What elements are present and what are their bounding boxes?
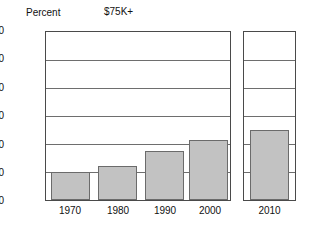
x-tick-1970: 1970 (44, 205, 96, 216)
gridline-30 (46, 116, 230, 117)
gridline-30-p2 (244, 116, 295, 117)
gridline-40 (46, 88, 230, 89)
y-tick-60: 60 (0, 26, 4, 36)
x-tick-2010: 2010 (243, 205, 296, 216)
plot-area-historical (45, 31, 231, 201)
y-tick-40: 40 (0, 83, 4, 93)
y-axis-ticks: 60 50 40 30 20 10 0 (0, 0, 45, 230)
y-tick-50: 50 (0, 54, 4, 64)
gridline-50 (46, 60, 230, 61)
gridline-40-p2 (244, 88, 295, 89)
bar-1970 (51, 172, 90, 200)
bar-chart: Percent $75K+ 60 50 40 30 20 10 0 1970 1… (0, 0, 313, 230)
chart-title: $75K+ (104, 6, 133, 18)
y-tick-10: 10 (0, 168, 4, 178)
y-tick-20: 20 (0, 140, 4, 150)
x-tick-1980: 1980 (92, 205, 144, 216)
bar-2000 (189, 140, 228, 200)
bar-1980 (98, 166, 137, 200)
x-tick-2000: 2000 (184, 205, 236, 216)
bar-2010 (250, 130, 289, 200)
y-tick-0: 0 (0, 196, 4, 206)
bar-1990 (145, 151, 184, 200)
plot-area-projection (243, 31, 296, 201)
gridline-50-p2 (244, 60, 295, 61)
y-tick-30: 30 (0, 111, 4, 121)
